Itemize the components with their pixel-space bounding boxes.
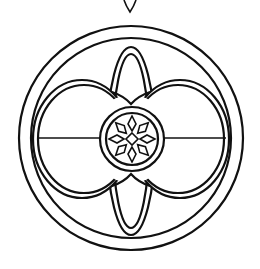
ornament-drawing [0,0,260,269]
ornament-canvas [0,0,260,269]
hanging-tip [124,0,136,12]
